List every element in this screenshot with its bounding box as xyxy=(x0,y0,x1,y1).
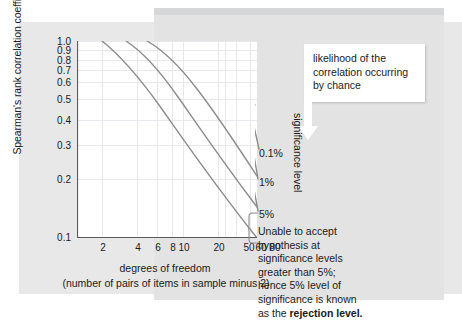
y-tick-0-6: 0.6 xyxy=(45,78,71,88)
y-tick-0-4: 0.4 xyxy=(45,116,71,126)
curve-1pct xyxy=(126,41,257,207)
note-line-6: significance is known xyxy=(258,293,410,307)
x-axis-tick-labels: 2 4 6 8 10 20 50 60 80 xyxy=(77,243,257,259)
curve-01pct xyxy=(147,41,257,176)
series-label-5pct: 5% xyxy=(259,208,274,220)
y-tick-0-1: 0.1 xyxy=(45,233,71,243)
leader-line-1pct xyxy=(255,150,258,179)
x-tick-20: 20 xyxy=(207,243,231,253)
y-tick-0-5: 0.5 xyxy=(45,95,71,105)
callout-box: likelihood of the correlation occurring … xyxy=(304,44,425,102)
x-tick-2: 2 xyxy=(91,243,115,253)
leader-line-5pct xyxy=(255,184,258,211)
leader-line-01pct xyxy=(255,122,259,149)
note-line-1: Unable to accept xyxy=(258,225,410,239)
significance-level-axis-label: significance level xyxy=(290,113,304,217)
note-line-4: greater than 5%; xyxy=(258,266,410,280)
series-label-01pct: 0.1% xyxy=(259,147,283,159)
y-tick-0-3: 0.3 xyxy=(45,141,71,151)
note-line-7-pre: as the xyxy=(258,307,290,319)
note-line-7-bold: rejection level. xyxy=(290,307,363,319)
note-line-2: hypothesis at xyxy=(258,239,410,253)
plot-area xyxy=(77,41,257,238)
y-axis-title: Spearman's rank correlation coefficient xyxy=(11,0,23,175)
series-label-1pct: 1% xyxy=(259,176,274,188)
y-tick-0-2: 0.2 xyxy=(45,175,71,185)
x-axis-title: degrees of freedom xyxy=(55,262,275,274)
panel-background-right-shade xyxy=(154,8,444,15)
gridlines-horizontal xyxy=(77,42,257,180)
note-line-7: as the rejection level. xyxy=(258,307,410,320)
note-line-5: hence 5% level of xyxy=(258,279,410,293)
note-line-3: significance levels xyxy=(258,252,410,266)
y-tick-0-7: 0.7 xyxy=(45,66,71,76)
x-tick-10: 10 xyxy=(172,243,196,253)
plot-canvas xyxy=(77,41,257,238)
rejection-note: Unable to accept hypothesis at significa… xyxy=(258,225,410,320)
y-axis-tick-labels: 1.0 0.9 0.8 0.7 0.6 0.5 0.4 0.3 0.2 0.1 xyxy=(45,41,71,238)
